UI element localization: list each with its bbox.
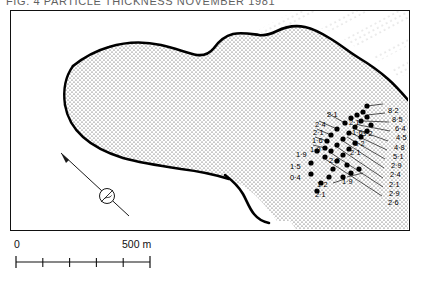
measurement-label: 0·4 — [290, 174, 301, 181]
measurement-label: 5·1 — [393, 153, 404, 160]
measurement-label: 8·2 — [388, 107, 399, 114]
measurement-label: 3·2 — [362, 130, 373, 137]
measurement-label: 3·2 — [354, 140, 365, 147]
scale-bar-ruler — [14, 253, 194, 271]
measurement-label: 8·5 — [392, 116, 403, 123]
measurement-label: 1·6 — [312, 137, 323, 144]
scale-bar: 0 500 m — [14, 238, 194, 272]
measurement-label: 1·5 — [290, 163, 301, 170]
measurement-label: 1·9 — [342, 178, 353, 185]
magnetic-north-arrow — [61, 153, 129, 216]
measurement-label: 6·4 — [395, 125, 406, 132]
measurement-label: 2·9 — [329, 157, 340, 164]
figure-caption: FIG. 4 PARTICLE THICKNESS NOVEMBER 1981 — [6, 0, 336, 6]
figure-panel: FIG. 4 PARTICLE THICKNESS NOVEMBER 1981 — [0, 0, 421, 283]
measurement-label: 4·8 — [394, 144, 405, 151]
measurement-label: 2·1 — [350, 149, 361, 156]
measurement-label: 2·1 — [389, 181, 400, 188]
map-frame: 1·91·50·42·12·42·11·61·92·11·63·23·22·12… — [10, 10, 410, 231]
measurement-label: 2·1 — [327, 111, 338, 118]
measurement-label: 1·9 — [310, 146, 321, 153]
scale-bar-end-label: 500 m — [122, 238, 151, 250]
measurement-label: 2·4 — [390, 171, 401, 178]
measurement-label: 2·1 — [349, 119, 360, 126]
measurement-label: 2·6 — [388, 199, 399, 206]
measurement-label: 2·9 — [389, 190, 400, 197]
measurement-label: 4·5 — [396, 134, 407, 141]
scale-bar-start-label: 0 — [14, 238, 20, 250]
measurement-label: 1·2 — [317, 181, 328, 188]
measurement-label: 2·1 — [315, 191, 326, 198]
measurement-label: 2·9 — [391, 162, 402, 169]
measurement-label: 1·9 — [296, 151, 307, 158]
